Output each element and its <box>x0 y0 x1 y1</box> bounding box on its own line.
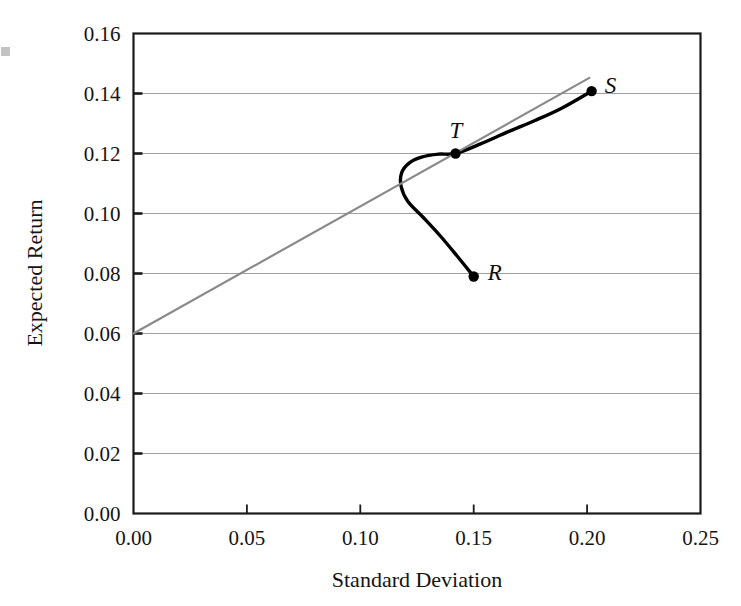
x-tick-label: 0.05 <box>229 526 266 550</box>
marker-point-R <box>469 271 479 281</box>
series-capital-market-line <box>134 78 590 334</box>
chart-figure: 0.000.050.100.150.200.25 0.000.020.040.0… <box>0 0 741 606</box>
marker-point-T <box>450 148 460 158</box>
y-tick-label: 0.12 <box>84 142 121 166</box>
portfolio-frontier-chart: 0.000.050.100.150.200.25 0.000.020.040.0… <box>0 0 741 606</box>
series-efficient-frontier-curve <box>400 91 591 276</box>
gridline-group <box>134 94 701 454</box>
y-tick-label: 0.10 <box>84 202 121 226</box>
y-axis-tick-labels: 0.000.020.040.060.080.100.120.140.16 <box>84 22 121 526</box>
y-tick-label: 0.08 <box>84 262 121 286</box>
x-axis-tick-labels: 0.000.050.100.150.200.25 <box>115 526 719 550</box>
x-tick-label: 0.25 <box>682 526 719 550</box>
x-axis-title: Standard Deviation <box>332 567 502 592</box>
y-axis-ticks <box>134 94 143 454</box>
x-tick-label: 0.20 <box>569 526 606 550</box>
y-tick-label: 0.06 <box>84 322 121 346</box>
y-tick-label: 0.16 <box>84 22 121 46</box>
point-annotations: RTS <box>450 73 617 284</box>
y-tick-label: 0.02 <box>84 442 121 466</box>
x-tick-label: 0.15 <box>455 526 492 550</box>
point-label-R: R <box>487 260 502 285</box>
point-label-S: S <box>605 73 617 98</box>
y-tick-label: 0.04 <box>84 382 121 406</box>
point-label-T: T <box>450 118 465 143</box>
y-tick-label: 0.14 <box>84 82 121 106</box>
x-tick-label: 0.10 <box>342 526 379 550</box>
x-tick-label: 0.00 <box>115 526 152 550</box>
y-tick-label: 0.00 <box>84 502 121 526</box>
x-axis-ticks <box>247 505 587 514</box>
marker-point-S <box>586 86 596 96</box>
data-series-group <box>134 78 592 334</box>
y-axis-title: Expected Return <box>22 199 47 346</box>
